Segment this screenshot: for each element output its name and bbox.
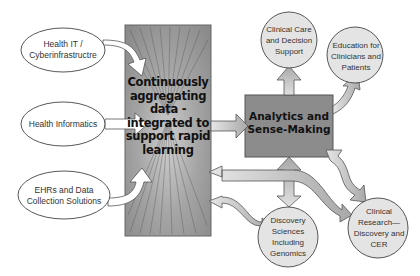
arrow-analytics-to-clinical-care xyxy=(277,66,301,95)
arrow-hub-to-analytics xyxy=(211,114,248,138)
label-clinical-care: Clinical Care and Decision Support xyxy=(265,22,313,58)
label-education: Education for Clinicians and Patients xyxy=(328,38,384,74)
label-health-it: Health IT / Cyberinfrastructre xyxy=(22,32,104,68)
label-clinical-research: Clinical Research— Discovery and CER xyxy=(352,206,406,250)
hub-label: Continuously aggregating data - integrat… xyxy=(125,76,211,157)
arrow-analytics-discovery-bidirectional xyxy=(277,157,301,207)
label-discovery-sciences: Discovery Sciences Including Genomics xyxy=(264,214,312,260)
analytics-label: Analytics and Sense-Making xyxy=(245,110,333,136)
label-ehrs: EHRs and Data Collection Solutions xyxy=(24,178,104,214)
arrow-analytics-clinical-research-bidirectional xyxy=(326,150,366,202)
label-health-informatics: Health Informatics xyxy=(22,106,104,142)
